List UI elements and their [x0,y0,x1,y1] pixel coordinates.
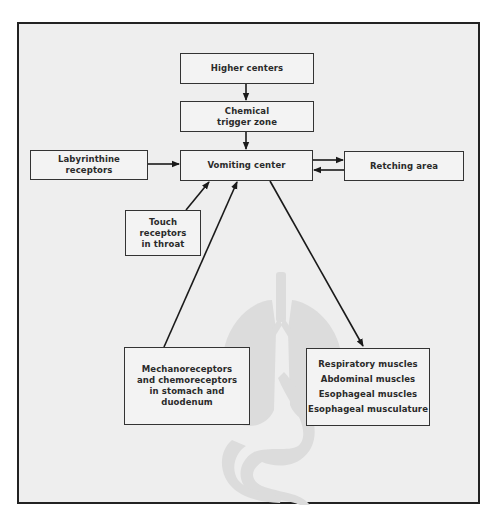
node-touch-receptors: Touch receptors in throat [125,210,201,256]
node-label: Labyrinthine [58,154,120,165]
node-label: Mechanoreceptors [142,364,233,375]
node-label: duodenum [161,397,213,408]
node-label: Esophageal muscles [319,387,418,402]
node-label: Vomiting center [207,160,285,171]
arrow-vomiting-to-muscles [270,181,363,346]
node-label: Retching area [370,161,438,172]
node-label: in throat [142,239,185,250]
node-label: Abdominal muscles [321,372,415,387]
node-higher-centers: Higher centers [180,53,314,84]
node-label: Respiratory muscles [318,357,418,372]
node-label: Touch [149,217,177,228]
node-label: and chemoreceptors [137,375,237,386]
node-label: Chemical [225,106,269,117]
node-label: trigger zone [217,117,277,128]
node-chemical-trigger-zone: Chemical trigger zone [180,101,314,132]
node-label: receptors [66,165,113,176]
node-label: Esophageal musculature [308,402,428,417]
node-label: receptors [140,228,187,239]
node-label: Higher centers [211,63,283,74]
node-vomiting-center: Vomiting center [180,150,313,181]
node-labyrinthine-receptors: Labyrinthine receptors [30,150,148,180]
node-mechanoreceptors: Mechanoreceptors and chemoreceptors in s… [124,347,250,425]
arrow-touch-to-vomiting [186,182,209,210]
node-muscles: Respiratory muscles Abdominal muscles Es… [306,348,430,426]
node-retching-area: Retching area [344,151,464,181]
node-label: in stomach and [150,386,225,397]
arrow-mechano-to-vomiting [164,182,237,347]
